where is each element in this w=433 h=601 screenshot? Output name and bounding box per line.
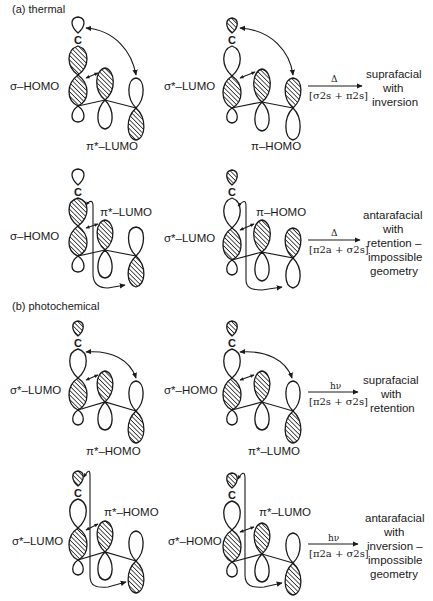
suprafacial-arrow-long	[240, 28, 293, 75]
result-line-1: antarafacial	[365, 512, 424, 524]
sigma-lobe-lower	[223, 530, 241, 562]
pi-lobe-right-top	[129, 381, 143, 411]
sigma-lobe-lower	[69, 75, 87, 106]
condition-label: hν	[328, 533, 339, 543]
sigma-lobe-bottom	[227, 260, 238, 275]
orbital-label-pi: π*–LUMO	[100, 206, 152, 218]
pi-lobe-right-top	[129, 531, 143, 561]
section-label-thermal: (a) thermal	[12, 3, 65, 15]
pi-lobe-right-bottom	[128, 256, 144, 287]
orbital-label-sigma: σ*–HOMO	[168, 535, 222, 547]
sigma-lobe-upper	[224, 501, 241, 530]
pi-lobe-right-bottom	[285, 563, 301, 595]
sigma-lobe-upper	[69, 46, 87, 75]
pi-lobe-middle-bottom	[98, 402, 112, 430]
result-line-5: geometry	[370, 265, 418, 277]
pi-lobe-right-top	[129, 227, 144, 256]
carbon-atom-label: C	[74, 337, 82, 349]
sigma-lobe-top	[227, 170, 238, 185]
result-line-3: retention –	[367, 237, 422, 249]
sigma-lobe-top	[72, 17, 84, 33]
diagram-b2-left: C σ*–LUMO π*–HOMO	[12, 471, 159, 593]
result-line-2: with	[382, 82, 403, 94]
orbital-label-pi: π–HOMO	[256, 206, 306, 218]
result-line-4: impossible	[368, 251, 422, 263]
pi-lobe-middle-bottom	[255, 252, 269, 281]
sigma-lobe-upper	[70, 349, 87, 378]
diagram-a2-left: C σ–HOMO π*–LUMO	[10, 169, 152, 288]
designation-label: [π2a + σ2s]	[309, 548, 369, 559]
designation-label: [σ2s + π2s]	[309, 90, 368, 101]
orbital-label-pi: π–HOMO	[251, 140, 301, 152]
carbon-atom-label: C	[228, 337, 236, 349]
sigma-lobe-upper	[224, 198, 241, 228]
pi-lobe-middle-top	[254, 371, 270, 402]
diagram-a2-right: C σ*–LUMO π–HOMO	[164, 170, 306, 290]
pi-lobe-middle-top	[254, 69, 271, 102]
sigma-lobe-bottom	[227, 108, 238, 123]
designation-label: [π2s + σ2s]	[309, 396, 368, 407]
pi-lobe-middle-bottom	[98, 552, 112, 580]
result-line-3: retention	[370, 402, 415, 414]
orbital-label-sigma: σ*–LUMO	[12, 535, 63, 547]
orbital-label-sigma: σ*–LUMO	[164, 80, 215, 92]
section-label-photochemical: (b) photochemical	[12, 300, 99, 312]
orbital-label-pi: π*–HOMO	[104, 506, 159, 518]
sigma-lobe-lower	[223, 228, 241, 260]
antarafacial-arrow-short	[86, 224, 98, 228]
result-line-2: with	[382, 223, 403, 235]
sigma-lobe-top	[72, 169, 84, 185]
orbital-label-pi: π*–LUMO	[259, 506, 311, 518]
result-line-3: inversion –	[367, 540, 423, 552]
carbon-atom-label: C	[74, 487, 82, 499]
suprafacial-arrow-long	[86, 352, 136, 378]
sigma-lobe-upper	[69, 198, 87, 226]
pi-lobe-right-bottom	[128, 411, 144, 443]
sigma-lobe-top	[227, 18, 238, 33]
orbital-label-sigma: σ–HOMO	[10, 230, 59, 242]
pi-lobe-middle-top	[254, 523, 270, 554]
diagram-b1-right: C σ*–HOMO π*–LUMO	[164, 321, 301, 457]
suprafacial-arrow-short	[240, 72, 255, 78]
condition-label: hν	[330, 381, 341, 391]
sigma-lobe-bottom	[72, 256, 84, 272]
orbital-label-pi: π*–LUMO	[86, 140, 138, 152]
pi-lobe-middle-bottom	[255, 102, 269, 131]
pi-lobe-middle-top	[97, 220, 113, 250]
orbital-label-sigma: σ–HOMO	[10, 80, 59, 92]
pi-lobe-middle-bottom	[255, 554, 269, 582]
result-line-2: with	[380, 388, 401, 400]
pi-lobe-right-top	[286, 533, 300, 563]
sigma-lobe-top	[227, 321, 238, 336]
sigma-lobe-lower	[223, 378, 241, 410]
sigma-lobe-lower	[69, 378, 87, 410]
sigma-lobe-upper	[70, 499, 87, 528]
pi-lobe-middle-bottom	[98, 250, 112, 278]
sigma-lobe-bottom	[73, 560, 84, 575]
result-line-4: impossible	[368, 554, 422, 566]
sigma-lobe-bottom	[73, 410, 84, 425]
result-line-1: suprafacial	[363, 374, 419, 386]
sigma-lobe-top	[73, 471, 84, 486]
result-line-2: with	[383, 526, 404, 538]
carbon-atom-label: C	[228, 186, 236, 198]
pi-lobe-middle-bottom	[255, 402, 269, 430]
condition-label: Δ	[331, 74, 338, 84]
result-line-3: inversion	[372, 96, 418, 108]
orbital-label-sigma: σ*–HOMO	[164, 384, 218, 396]
diagram-b1-left: C σ*–LUMO π*–HOMO	[10, 321, 144, 457]
sigma-lobe-lower	[223, 76, 241, 108]
pi-lobe-right-top	[285, 228, 301, 258]
suprafacial-arrow-short	[240, 375, 254, 380]
result-line-1: antarafacial	[363, 209, 422, 221]
pi-lobe-right-bottom	[286, 258, 300, 288]
diagram-b2-right: C σ*–HOMO π*–LUMO	[168, 473, 311, 595]
pi-lobe-middle-top	[97, 521, 113, 552]
pi-lobe-right-bottom	[286, 108, 300, 140]
suprafacial-arrow-short	[86, 375, 98, 380]
pi-lobe-middle-bottom	[98, 100, 112, 129]
carbon-atom-label: C	[74, 34, 82, 46]
sigma-lobe-top	[227, 473, 238, 488]
reaction-a1: Δ [σ2s + π2s] suprafacial with inversion	[308, 68, 422, 108]
suprafacial-arrow-long	[86, 28, 136, 75]
